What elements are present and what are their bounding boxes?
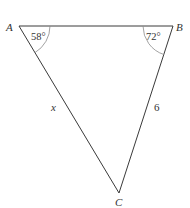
side-label-bc: 6 — [154, 101, 160, 113]
angle-label-a: 58° — [31, 31, 46, 42]
vertex-label-b: B — [176, 21, 183, 33]
side-label-ac: x — [50, 101, 56, 113]
vertex-label-c: C — [115, 196, 123, 208]
side-ac — [19, 26, 119, 193]
triangle-diagram: A B C 58° 72° x 6 — [0, 0, 190, 208]
side-bc — [119, 26, 173, 193]
vertex-label-a: A — [5, 21, 13, 33]
angle-label-b: 72° — [146, 31, 161, 42]
triangle-figure: A B C 58° 72° x 6 — [0, 0, 190, 208]
